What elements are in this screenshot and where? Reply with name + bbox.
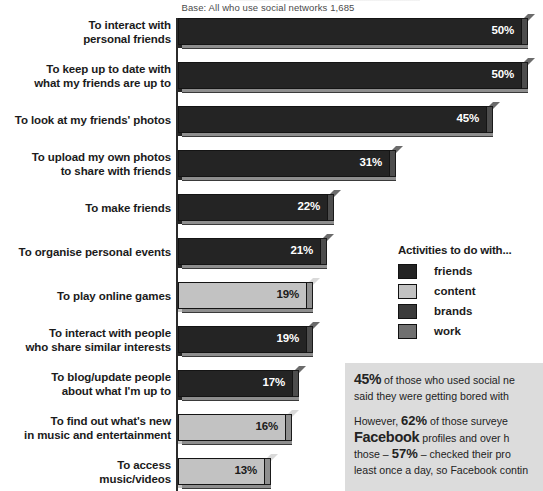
- bar[interactable]: 22%: [178, 194, 334, 224]
- bar-front-face: [178, 18, 522, 45]
- bar-row-label: To find out what's new in music and ente…: [0, 415, 171, 442]
- bar-row: To upload my own photos to share with fr…: [0, 148, 543, 184]
- bar-row-label: To keep up to date with what my friends …: [0, 63, 171, 90]
- bar-shadow: [182, 309, 313, 313]
- bar[interactable]: 17%: [178, 370, 299, 400]
- callout-para2-pre: However,: [354, 415, 401, 427]
- bar-row-label: To play online games: [0, 290, 171, 304]
- legend-swatch-brands: [398, 304, 417, 319]
- callout-paragraph-1: 45% of those who used social ne said the…: [354, 372, 533, 404]
- bar-side-face: [390, 150, 396, 177]
- bar-shadow: [182, 45, 528, 49]
- bar-side-face: [487, 106, 493, 133]
- legend-swatch-content: [398, 284, 417, 299]
- bar-row-label-line1: To access: [0, 459, 171, 473]
- bar-value-label: 19%: [277, 288, 299, 300]
- bar[interactable]: 19%: [178, 326, 313, 356]
- callout-paragraph-2: However, 62% of those surveye Facebook p…: [354, 413, 533, 478]
- bar-row-label-line1: To interact with people: [0, 327, 171, 341]
- bar-side-face: [265, 458, 271, 485]
- callout-para2-post: of those surveye: [427, 415, 508, 427]
- legend-label-work: work: [434, 325, 461, 337]
- bar[interactable]: 16%: [178, 414, 292, 444]
- bar-value-label: 31%: [360, 156, 382, 168]
- bar[interactable]: 45%: [178, 106, 493, 136]
- bar-side-face: [307, 326, 313, 353]
- bar-side-face: [286, 414, 292, 441]
- bar-shadow: [182, 133, 493, 137]
- bar-row-label-line2: to share with friends: [0, 165, 171, 179]
- bar-row-label-line2: about what I'm up to: [0, 385, 171, 399]
- legend-label-content: content: [434, 285, 476, 297]
- bar[interactable]: 19%: [178, 282, 313, 312]
- bar-row-label-line1: To find out what's new: [0, 415, 171, 429]
- bar-value-label: 22%: [298, 200, 320, 212]
- bar-side-face: [328, 194, 334, 221]
- bar-shadow: [182, 265, 327, 269]
- bar-value-label: 13%: [235, 464, 257, 476]
- bar-row-label: To upload my own photos to share with fr…: [0, 151, 171, 178]
- bar-row-label: To blog/update people about what I'm up …: [0, 371, 171, 398]
- bar[interactable]: 50%: [178, 62, 528, 92]
- callout-panel: 45% of those who used social ne said the…: [345, 363, 543, 491]
- bar-row-label-line1: To interact with: [0, 19, 171, 33]
- bar-value-label: 16%: [256, 420, 278, 432]
- bar-side-face: [522, 18, 528, 45]
- bar-row-label: To interact with people who share simila…: [0, 327, 171, 354]
- callout-para1-line2: said they were getting bored with: [354, 390, 509, 402]
- legend-swatch-friends: [398, 264, 417, 279]
- bar-row-label: To interact with personal friends: [0, 19, 171, 46]
- bar-row-label-line1: To organise personal events: [0, 246, 171, 260]
- bar-shadow: [182, 397, 299, 401]
- bar[interactable]: 13%: [178, 458, 271, 488]
- callout-para2-line3-post: – checked their pro: [418, 448, 511, 460]
- callout-para1-rest: of those who used social ne: [381, 374, 515, 386]
- bar-row-label-line2: who share similar interests: [0, 341, 171, 355]
- bar[interactable]: 50%: [178, 18, 528, 48]
- callout-stat-45: 45%: [354, 371, 381, 387]
- bar-value-label: 50%: [492, 68, 514, 80]
- bar-row-label-line2: personal friends: [0, 33, 171, 47]
- callout-para2-line4: least once a day, so Facebook contin: [354, 464, 528, 476]
- bar-row-label-line2: what my friends are up to: [0, 77, 171, 91]
- bar-row: To interact with personal friends 50%: [0, 16, 543, 52]
- bar-row-label-line1: To blog/update people: [0, 371, 171, 385]
- bar-row-label: To look at my friends' photos: [0, 114, 171, 128]
- bar-shadow: [182, 221, 334, 225]
- bar-value-label: 45%: [457, 112, 479, 124]
- legend-label-brands: brands: [434, 305, 472, 317]
- bar-shadow: [182, 485, 271, 489]
- bar-row: To keep up to date with what my friends …: [0, 60, 543, 96]
- bar-side-face: [522, 62, 528, 89]
- bar-row-label-line1: To make friends: [0, 202, 171, 216]
- bar-side-face: [321, 238, 327, 265]
- legend-item-brands[interactable]: brands: [398, 301, 543, 321]
- legend-title: Activities to do with...: [398, 244, 543, 256]
- bar-value-label: 50%: [492, 24, 514, 36]
- bar[interactable]: 21%: [178, 238, 327, 268]
- bar-shadow: [182, 353, 313, 357]
- chart-legend: Activities to do with... friends content…: [398, 244, 543, 341]
- bar-front-face: [178, 150, 390, 177]
- bar-row-label-line2: music/videos: [0, 473, 171, 487]
- bar-shadow: [182, 89, 528, 93]
- bar-row-label-line1: To play online games: [0, 290, 171, 304]
- bar-value-label: 19%: [277, 332, 299, 344]
- bar-row-label-line2: in music and entertainment: [0, 429, 171, 443]
- bar-row: To make friends 22%: [0, 192, 543, 228]
- callout-para2-line3-pre: those –: [354, 448, 392, 460]
- bar-shadow: [182, 441, 292, 445]
- bar-shadow: [182, 177, 396, 181]
- bar-front-face: [178, 62, 522, 89]
- callout-stat-62: 62%: [401, 413, 427, 428]
- legend-label-friends: friends: [434, 265, 472, 277]
- legend-item-friends[interactable]: friends: [398, 261, 543, 281]
- legend-item-work[interactable]: work: [398, 321, 543, 341]
- bar-row-label: To organise personal events: [0, 246, 171, 260]
- callout-para2-after-brand: profiles and over h: [419, 432, 509, 444]
- bar[interactable]: 31%: [178, 150, 396, 180]
- bar-row-label: To make friends: [0, 202, 171, 216]
- bar-row-label-line1: To upload my own photos: [0, 151, 171, 165]
- callout-brand-facebook: Facebook: [354, 429, 419, 445]
- legend-item-content[interactable]: content: [398, 281, 543, 301]
